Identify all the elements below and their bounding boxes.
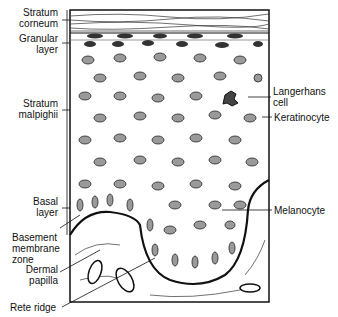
label-keratinocyte: Keratinocyte [274, 112, 330, 123]
label-granular-layer: Granularlayer [2, 33, 58, 55]
label-dermal-papilla: Dermalpapilla [2, 264, 58, 286]
label-langerhans-cell: Langerhanscell [273, 86, 326, 108]
label-melanocyte: Melanocyte [274, 205, 325, 216]
label-stratum-malpighii: Stratummalpighii [2, 98, 58, 120]
label-stratum-corneum: Stratumcorneum [2, 7, 58, 29]
label-basal-layer: Basallayer [2, 196, 58, 218]
label-basement-membrane-zone: Basementmembranezone [12, 232, 72, 265]
label-rete-ridge: Rete ridge [10, 302, 56, 313]
